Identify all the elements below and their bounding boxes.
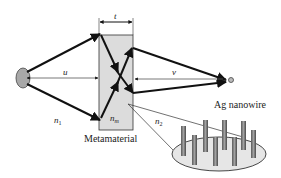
metamaterial-caption: Metamaterial [84, 133, 138, 144]
thickness-label: t [114, 11, 117, 21]
nanowire [181, 126, 186, 156]
image-point [229, 78, 234, 83]
nanowire [251, 130, 256, 158]
n1-label: n1 [54, 115, 62, 126]
nanowire [232, 137, 237, 166]
nanowire [213, 137, 218, 166]
nanowire [222, 120, 227, 150]
metamaterial-lens-diagram: t u v n1 nm n2 Metamaterial Ag nanowire [0, 0, 281, 178]
nanowire-caption: Ag nanowire [214, 99, 266, 110]
metamaterial-slab [99, 35, 133, 130]
ray-lower-incident [27, 84, 100, 120]
n2-label: n2 [155, 116, 163, 127]
nanowire [203, 120, 208, 152]
ray-upper-exit [133, 48, 226, 80]
nanowire [192, 135, 197, 165]
nanowire [241, 121, 246, 150]
image-distance-label: v [172, 67, 176, 77]
object-distance-label: u [63, 67, 68, 77]
ray-lower-exit [133, 82, 226, 93]
